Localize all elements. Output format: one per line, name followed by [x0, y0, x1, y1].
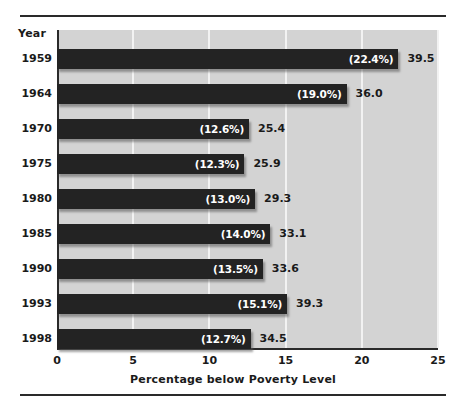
- bar-percent-label: (12.3%): [195, 154, 240, 174]
- year-tick-1985: 1985: [14, 224, 52, 244]
- bar-row: (13.5%)33.6: [57, 259, 438, 279]
- year-tick-1975: 1975: [14, 154, 52, 174]
- year-tick-1998: 1998: [14, 329, 52, 349]
- bar-value-label: 33.1: [279, 224, 306, 244]
- bar-value-label: 29.3: [264, 189, 291, 209]
- top-divider-rule: [20, 15, 446, 17]
- bar-value-label: 36.0: [356, 84, 383, 104]
- x-tick-15: 15: [266, 354, 306, 367]
- bar-row: (15.1%)39.3: [57, 294, 438, 314]
- bar-1990: (13.5%): [57, 259, 263, 279]
- bar-value-label: 34.5: [260, 329, 287, 349]
- year-tick-1980: 1980: [14, 189, 52, 209]
- bar-1998: (12.7%): [57, 329, 251, 349]
- bar-percent-label: (13.5%): [213, 259, 258, 279]
- bar-1964: (19.0%): [57, 84, 347, 104]
- bar-value-label: 25.9: [253, 154, 280, 174]
- bar-percent-label: (22.4%): [349, 49, 394, 69]
- x-tick-10: 10: [189, 354, 229, 367]
- x-tick-5: 5: [113, 354, 153, 367]
- bar-percent-label: (15.1%): [237, 294, 282, 314]
- bar-value-label: 33.6: [272, 259, 299, 279]
- bar-1980: (13.0%): [57, 189, 255, 209]
- bar-value-label: 25.4: [258, 119, 285, 139]
- x-tick-20: 20: [342, 354, 382, 367]
- bar-percent-label: (13.0%): [205, 189, 250, 209]
- bar-row: (19.0%)36.0: [57, 84, 438, 104]
- poverty-bar-chart-figure: Year (22.4%)39.5(19.0%)36.0(12.6%)25.4(1…: [0, 0, 466, 404]
- bar-row: (13.0%)29.3: [57, 189, 438, 209]
- year-tick-1964: 1964: [14, 84, 52, 104]
- year-tick-1990: 1990: [14, 259, 52, 279]
- bar-percent-label: (12.7%): [201, 329, 246, 349]
- bar-1993: (15.1%): [57, 294, 287, 314]
- bar-percent-label: (12.6%): [199, 119, 244, 139]
- bar-value-label: 39.5: [407, 49, 434, 69]
- bar-row: (12.6%)25.4: [57, 119, 438, 139]
- bar-percent-label: (14.0%): [221, 224, 266, 244]
- year-column-header: Year: [18, 27, 46, 40]
- year-tick-1959: 1959: [14, 49, 52, 69]
- bar-1959: (22.4%): [57, 49, 398, 69]
- bar-row: (22.4%)39.5: [57, 49, 438, 69]
- year-tick-1993: 1993: [14, 294, 52, 314]
- x-axis-title: Percentage below Poverty Level: [0, 373, 466, 386]
- bar-1970: (12.6%): [57, 119, 249, 139]
- bar-1975: (12.3%): [57, 154, 244, 174]
- bar-percent-label: (19.0%): [297, 84, 342, 104]
- x-tick-25: 25: [418, 354, 458, 367]
- bar-row: (14.0%)33.1: [57, 224, 438, 244]
- year-tick-1970: 1970: [14, 119, 52, 139]
- x-tick-0: 0: [37, 354, 77, 367]
- bar-value-label: 39.3: [296, 294, 323, 314]
- bottom-divider-rule: [20, 394, 446, 396]
- bar-row: (12.3%)25.9: [57, 154, 438, 174]
- bar-row: (12.7%)34.5: [57, 329, 438, 349]
- bar-1985: (14.0%): [57, 224, 270, 244]
